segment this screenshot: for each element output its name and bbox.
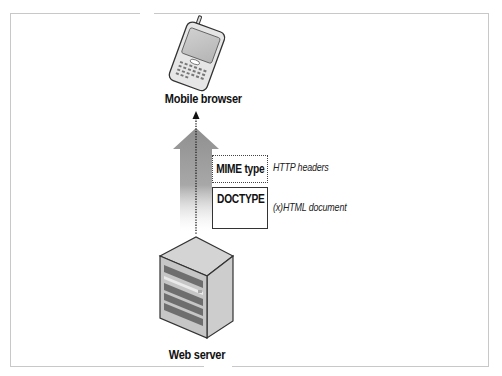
doctype-box: DOCTYPE: [212, 187, 268, 229]
doctype-label: DOCTYPE: [217, 192, 263, 206]
html-document-annotation: (x)HTML document: [273, 201, 346, 213]
mobile-browser-label: Mobile browser: [165, 92, 235, 106]
mobile-phone-icon: [168, 13, 230, 92]
web-server-label: Web server: [162, 348, 232, 362]
mime-type-label: MIME type: [216, 162, 264, 176]
http-headers-annotation: HTTP headers: [273, 161, 329, 173]
server-icon: [160, 237, 233, 338]
arrowhead-icon: [193, 111, 200, 119]
mime-type-box: MIME type: [212, 155, 268, 183]
